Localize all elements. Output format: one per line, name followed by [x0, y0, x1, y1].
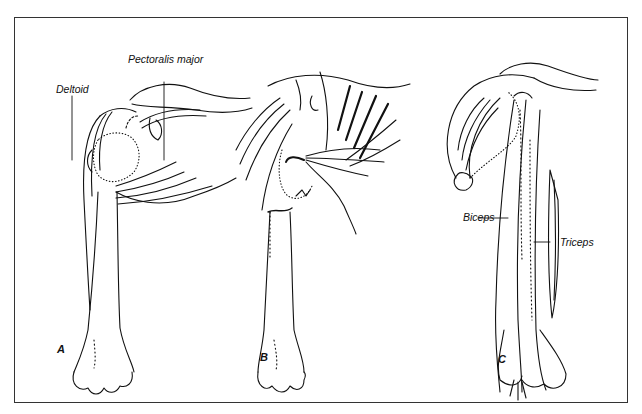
panel-letter-a: A — [57, 344, 65, 355]
panel-letter-b: B — [260, 352, 268, 363]
panel-c-drawing — [447, 63, 598, 400]
label-triceps: Triceps — [560, 237, 594, 248]
panel-letter-c: C — [498, 354, 506, 365]
anatomy-illustration — [0, 0, 642, 414]
panel-a-drawing — [73, 84, 252, 394]
label-deltoid: Deltoid — [56, 84, 89, 95]
label-biceps: Biceps — [463, 212, 495, 223]
label-pectoralis-major: Pectoralis major — [128, 54, 203, 65]
panel-b-drawing — [236, 72, 410, 392]
